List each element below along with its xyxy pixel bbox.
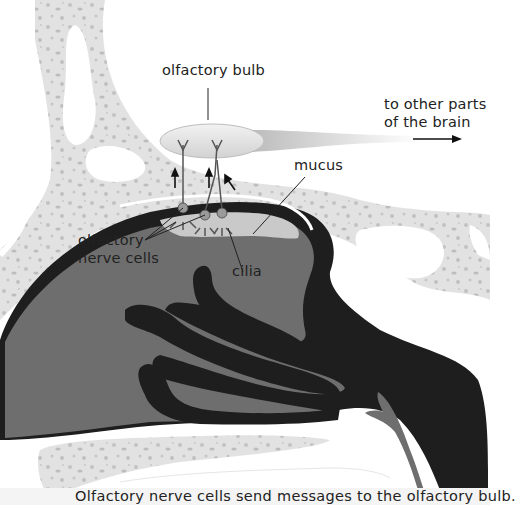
label-cilia: cilia: [232, 263, 262, 280]
caption-text: Olfactory nerve cells send messages to t…: [75, 488, 516, 504]
label-nerve-cells-line1: olfactory: [78, 232, 144, 249]
label-mucus: mucus: [294, 157, 343, 174]
to-brain-arrow-icon: [413, 135, 462, 143]
label-olfactory-bulb: olfactory bulb: [162, 62, 265, 79]
label-nerve-cells-line2: nerve cells: [78, 250, 159, 267]
caption-bar: Olfactory nerve cells send messages to t…: [0, 488, 490, 505]
olfactory-bulb: [160, 124, 420, 158]
palate-bone: [38, 435, 390, 490]
label-other-parts-line1: to other parts: [384, 96, 487, 113]
label-other-parts-line2: of the brain: [384, 114, 471, 131]
